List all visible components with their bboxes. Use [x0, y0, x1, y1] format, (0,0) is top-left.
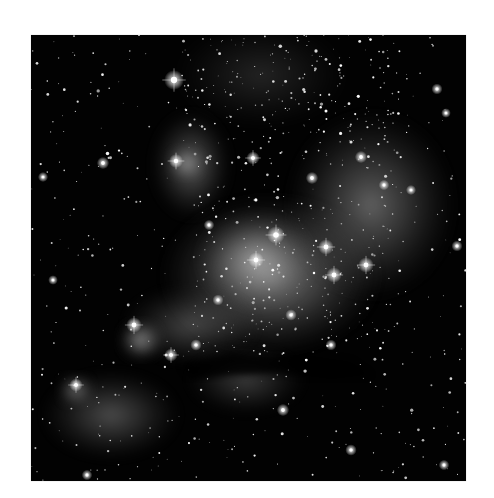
star-field: [31, 35, 466, 481]
bright-star: [97, 157, 109, 169]
nebula-photograph: [31, 35, 466, 481]
bright-star: [379, 180, 390, 191]
bright-star: [439, 460, 450, 471]
bright-star: [213, 295, 224, 306]
bright-star: [326, 340, 337, 351]
bright-star: [285, 309, 296, 320]
bright-star: [38, 172, 48, 182]
bright-star: [277, 404, 289, 416]
bright-star: [432, 84, 443, 95]
bright-star: [82, 470, 93, 481]
bright-star: [441, 108, 451, 118]
bright-star: [204, 220, 215, 231]
bright-star: [245, 150, 261, 166]
bright-star: [48, 275, 58, 285]
bright-star: [355, 151, 367, 163]
bright-star: [306, 172, 318, 184]
bright-star: [345, 444, 356, 455]
bright-star: [452, 241, 463, 252]
nebula-glow-layer: [41, 35, 456, 460]
right-arc-shell: [286, 110, 456, 300]
bright-star: [190, 339, 201, 350]
bright-star: [406, 185, 416, 195]
